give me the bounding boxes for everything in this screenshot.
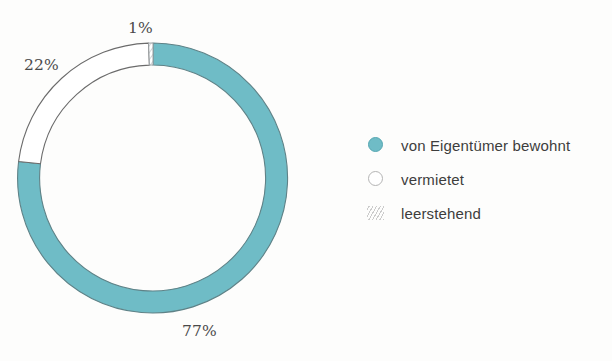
slice-label-leerstehend: 1% bbox=[128, 19, 153, 37]
legend-label-leerstehend: leerstehend bbox=[401, 205, 481, 222]
donut-chart: 1% 22% 77% bbox=[0, 0, 320, 361]
legend-label-vermietet: vermietet bbox=[401, 171, 464, 188]
legend-item-vermietet[interactable]: vermietet bbox=[366, 162, 606, 196]
donut-chart-svg bbox=[0, 0, 320, 361]
legend-item-von-eigentuemer-bewohnt[interactable]: von Eigentümer bewohnt bbox=[366, 128, 606, 162]
legend-label-von-eigentuemer-bewohnt: von Eigentümer bewohnt bbox=[401, 137, 570, 154]
legend-item-leerstehend[interactable]: leerstehend bbox=[366, 196, 606, 230]
slice-label-vermietet: 22% bbox=[24, 56, 59, 74]
chart-legend: von Eigentümer bewohnt vermietet leerste… bbox=[366, 128, 606, 230]
slice-label-von-eigentuemer-bewohnt: 77% bbox=[182, 322, 217, 340]
hatch-lines-icon bbox=[366, 203, 386, 223]
chart-page: 1% 22% 77% von Eigentümer bewohnt vermie… bbox=[0, 0, 612, 361]
donut-slice-leerstehend[interactable] bbox=[149, 43, 153, 65]
filled-circle-icon bbox=[366, 135, 386, 155]
empty-circle-icon bbox=[366, 169, 386, 189]
